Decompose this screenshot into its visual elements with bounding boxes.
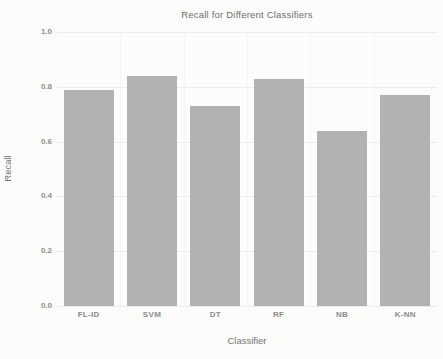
bar-DT: [190, 106, 240, 306]
bar-FL-ID: [64, 90, 114, 306]
y-tick-label: 0.0: [32, 301, 52, 310]
h-gridline: [57, 306, 437, 307]
y-tick-label: 1.0: [32, 27, 52, 36]
bar-NB: [317, 131, 367, 306]
x-tick-label-K-NN: K-NN: [374, 310, 437, 319]
y-tick-label: 0.2: [32, 246, 52, 255]
x-tick-label-SVM: SVM: [120, 310, 183, 319]
chart-figure: Recall for Different Classifiers Recall …: [0, 0, 443, 359]
x-tick-label-RF: RF: [247, 310, 310, 319]
v-gridline: [310, 32, 311, 306]
y-tick-label: 0.6: [32, 137, 52, 146]
x-axis-label: Classifier: [57, 335, 437, 346]
y-axis-label: Recall: [2, 107, 13, 231]
y-tick-label: 0.4: [32, 191, 52, 200]
v-gridline: [374, 32, 375, 306]
chart-title: Recall for Different Classifiers: [57, 9, 437, 20]
plot-area: [57, 32, 437, 306]
v-gridline: [120, 32, 121, 306]
v-gridline: [247, 32, 248, 306]
x-tick-label-FL-ID: FL-ID: [57, 310, 120, 319]
x-tick-label-NB: NB: [310, 310, 373, 319]
bar-K-NN: [380, 95, 430, 306]
x-tick-label-DT: DT: [184, 310, 247, 319]
bar-SVM: [127, 76, 177, 306]
bar-RF: [254, 79, 304, 306]
v-gridline: [184, 32, 185, 306]
y-tick-label: 0.8: [32, 82, 52, 91]
